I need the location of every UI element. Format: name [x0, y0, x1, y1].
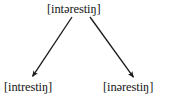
arrow-to-right-variant — [90, 17, 133, 77]
arrow-to-left-variant — [33, 17, 72, 76]
phonetic-derivation-diagram: [intərestiŋ] [intrestiŋ] [inərestiŋ] — [0, 0, 169, 100]
variant-transcription-left: [intrestiŋ] — [4, 80, 52, 94]
variant-transcription-right: [inərestiŋ] — [103, 80, 153, 94]
